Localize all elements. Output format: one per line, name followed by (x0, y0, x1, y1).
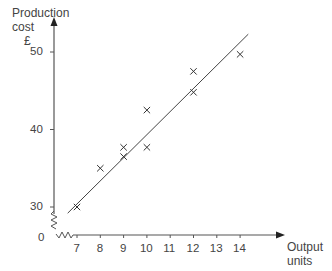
x-tick-label: 8 (97, 242, 103, 254)
data-point-x-marker (190, 89, 196, 95)
x-tick-label: 13 (210, 242, 223, 254)
data-point-x-marker (190, 68, 196, 74)
x-axis-label-line1: Output (287, 240, 323, 254)
x-axis-break-icon (56, 232, 73, 238)
x-axis-arrow-icon (276, 232, 285, 239)
x-tick-label: 12 (187, 242, 200, 254)
x-tick-label: 7 (74, 242, 80, 254)
origin-label: 0 (38, 231, 44, 243)
data-point-x-marker (237, 51, 243, 57)
data-point-x-marker (97, 165, 103, 171)
chart-plot-area (0, 0, 332, 271)
x-tick-label: 11 (163, 242, 175, 254)
x-axis-label-line2: units (287, 254, 312, 268)
y-axis-label-line1: Production (12, 6, 69, 20)
y-tick-label: 50 (30, 45, 43, 57)
x-tick-label: 9 (120, 242, 126, 254)
data-point-x-marker (120, 153, 126, 159)
data-point-x-marker (74, 204, 80, 210)
y-axis-label-line2: cost (12, 20, 34, 34)
best-fit-line (68, 34, 249, 213)
x-tick-label: 14 (233, 242, 246, 254)
x-tick-label: 10 (140, 242, 153, 254)
data-point-x-marker (144, 144, 150, 150)
y-tick-label: 30 (30, 200, 43, 212)
data-point-x-marker (120, 144, 126, 150)
y-tick-label: 40 (30, 123, 43, 135)
data-point-x-marker (144, 107, 150, 113)
